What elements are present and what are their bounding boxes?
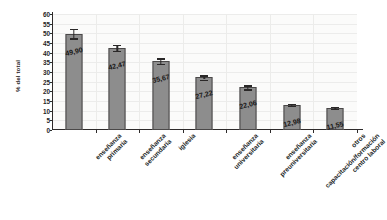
error-bar-cap-bottom — [288, 106, 296, 107]
y-tick-label: 35 — [30, 59, 50, 66]
error-bar-cap-top — [157, 58, 165, 59]
error-bar-cap-top — [70, 29, 78, 30]
y-tick-label: 50 — [30, 30, 50, 37]
y-tick-label: 20 — [30, 88, 50, 95]
x-axis-category-labels: enseñanzaprimariaenseñanzasecundariaigle… — [52, 132, 364, 218]
error-bar-cap-bottom — [244, 89, 252, 90]
y-tick-mark — [50, 130, 52, 131]
y-tick-label: 0 — [30, 127, 50, 134]
y-tick-label: 55 — [30, 20, 50, 27]
y-tick-label: 40 — [30, 49, 50, 56]
y-tick-label: 30 — [30, 69, 50, 76]
error-bar-cap-top — [288, 104, 296, 105]
bar-series: 49,9042,4735,6727,2222,0612,9811,55 — [52, 14, 357, 130]
error-bar-cap-top — [113, 45, 121, 46]
error-bar-cap-bottom — [331, 109, 339, 110]
error-bar-cap-top — [200, 75, 208, 76]
y-tick-label: 15 — [30, 98, 50, 105]
error-bar-cap-top — [244, 85, 252, 86]
category-label: enseñanzaprimaria — [94, 132, 130, 168]
y-axis-title: % del total — [14, 0, 26, 44]
category-label: iglesia — [177, 132, 197, 152]
y-tick-label: 60 — [30, 11, 50, 18]
category-label: enseñanzapreuniversitaria — [273, 132, 320, 179]
error-bar-cap-bottom — [157, 64, 165, 65]
y-tick-label: 25 — [30, 78, 50, 85]
plot-area: 605550454035302520151050 49,9042,4735,67… — [52, 14, 357, 130]
y-tick-label: 5 — [30, 117, 50, 124]
error-bar-cap-bottom — [70, 38, 78, 39]
error-bar-cap-bottom — [200, 80, 208, 81]
error-bar-cap-top — [331, 107, 339, 108]
bar-group[interactable]: 42,47 — [96, 14, 140, 130]
category-label: enseñanzasecundaria — [138, 132, 175, 169]
bar-group[interactable]: 35,67 — [139, 14, 183, 130]
bar[interactable] — [196, 77, 213, 130]
bar-group[interactable]: 49,90 — [52, 14, 96, 130]
y-tick-label: 10 — [30, 107, 50, 114]
category-label: enseñanzauniversitaria — [226, 132, 266, 172]
bar-group[interactable]: 12,98 — [270, 14, 314, 130]
y-axis-title-text: % del total — [14, 44, 21, 108]
error-bar-cap-bottom — [113, 51, 121, 52]
bar-group[interactable]: 22,06 — [226, 14, 270, 130]
bar-group[interactable]: 27,22 — [183, 14, 227, 130]
category-label-line: iglesia — [177, 132, 197, 152]
bar[interactable] — [152, 61, 169, 130]
bar-group[interactable]: 11,55 — [313, 14, 357, 130]
y-tick-label: 45 — [30, 40, 50, 47]
